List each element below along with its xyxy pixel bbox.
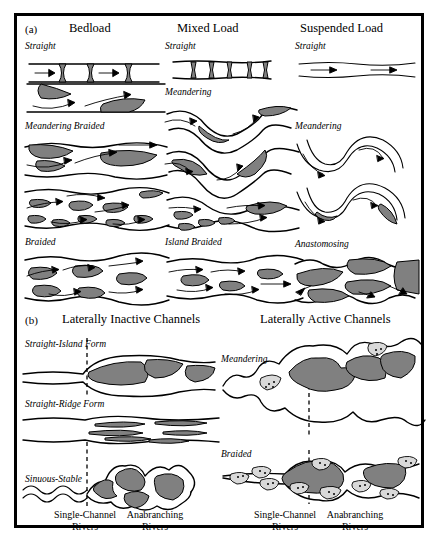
diagram-straight-island-form (21, 350, 221, 398)
footer-anabranching-left-line2: Rivers (91, 521, 219, 533)
panel-b-id: (b) (25, 315, 38, 326)
footer-anabranching-right-line2: Rivers (291, 521, 419, 533)
label-straight-island-form: Straight-Island Form (25, 340, 106, 350)
group-heading-laterally-active: Laterally Active Channels (260, 313, 391, 326)
diagram-straight-ridge-form (21, 410, 221, 448)
panel-b: (b) Laterally Inactive Channels Laterall… (17, 16, 421, 525)
diagram-active-meandering (217, 328, 425, 406)
footer-anabranching-left-line1: Anabranching (91, 509, 219, 521)
label-straight-ridge-form: Straight-Ridge Form (25, 400, 104, 410)
figure-frame: (a) Bedload Mixed Load Suspended Load St… (14, 13, 424, 528)
diagram-sinuous-stable (21, 446, 221, 508)
diagram-active-braided (217, 440, 425, 506)
footer-anabranching-right-line1: Anabranching (291, 509, 419, 521)
group-heading-laterally-inactive: Laterally Inactive Channels (62, 313, 200, 326)
